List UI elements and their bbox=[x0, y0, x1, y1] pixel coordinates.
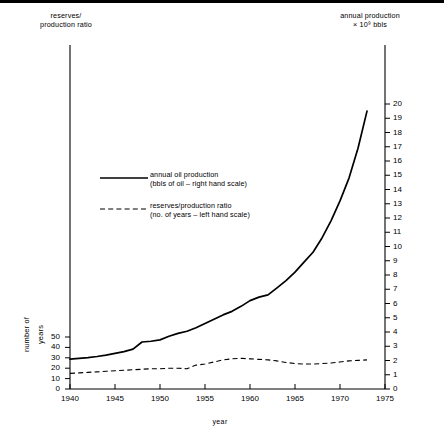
right-tick-15: 15 bbox=[393, 171, 415, 179]
right-tick-14: 14 bbox=[393, 186, 415, 194]
x-tick-1975: 1975 bbox=[365, 395, 405, 403]
legend-ratio-line1: reserves/production ratio bbox=[150, 201, 232, 210]
x-axis-ticks bbox=[70, 384, 385, 389]
left-axis-ticks bbox=[65, 337, 70, 389]
right-tick-9: 9 bbox=[393, 257, 415, 265]
right-tick-20: 20 bbox=[393, 100, 415, 108]
right-tick-13: 13 bbox=[393, 200, 415, 208]
legend-production-line1: annual oil production bbox=[150, 170, 218, 179]
series-reserves-production-ratio bbox=[70, 358, 367, 373]
right-tick-6: 6 bbox=[393, 300, 415, 308]
right-tick-1: 1 bbox=[393, 371, 415, 379]
right-tick-3: 3 bbox=[393, 342, 415, 350]
x-tick-1965: 1965 bbox=[275, 395, 315, 403]
legend-entry-ratio: reserves/production ratio (no. of years … bbox=[150, 201, 250, 220]
left-tick-30: 30 bbox=[38, 354, 60, 362]
right-tick-19: 19 bbox=[393, 114, 415, 122]
left-tick-50: 50 bbox=[38, 333, 60, 341]
right-tick-5: 5 bbox=[393, 314, 415, 322]
x-tick-1970: 1970 bbox=[320, 395, 360, 403]
right-tick-8: 8 bbox=[393, 271, 415, 279]
left-tick-20: 20 bbox=[38, 364, 60, 372]
right-tick-0: 0 bbox=[393, 385, 415, 393]
x-tick-1940: 1940 bbox=[50, 395, 90, 403]
left-tick-10: 10 bbox=[38, 375, 60, 383]
left-tick-0: 0 bbox=[38, 385, 60, 393]
right-axis-ticks bbox=[385, 104, 390, 389]
x-tick-1960: 1960 bbox=[230, 395, 270, 403]
right-tick-2: 2 bbox=[393, 357, 415, 365]
right-tick-7: 7 bbox=[393, 285, 415, 293]
legend-production-line2: (bbls of oil – right hand scale) bbox=[150, 179, 247, 188]
right-tick-4: 4 bbox=[393, 328, 415, 336]
right-tick-18: 18 bbox=[393, 129, 415, 137]
series-annual-oil-production bbox=[70, 111, 367, 359]
legend-entry-production: annual oil production (bbls of oil – rig… bbox=[150, 170, 247, 189]
x-tick-1950: 1950 bbox=[140, 395, 180, 403]
x-tick-1955: 1955 bbox=[185, 395, 225, 403]
right-tick-16: 16 bbox=[393, 157, 415, 165]
x-tick-1945: 1945 bbox=[95, 395, 135, 403]
right-tick-12: 12 bbox=[393, 214, 415, 222]
right-tick-10: 10 bbox=[393, 243, 415, 251]
right-tick-17: 17 bbox=[393, 143, 415, 151]
right-tick-11: 11 bbox=[393, 228, 415, 236]
legend-ratio-line2: (no. of years – left hand scale) bbox=[150, 210, 250, 219]
left-tick-40: 40 bbox=[38, 343, 60, 351]
